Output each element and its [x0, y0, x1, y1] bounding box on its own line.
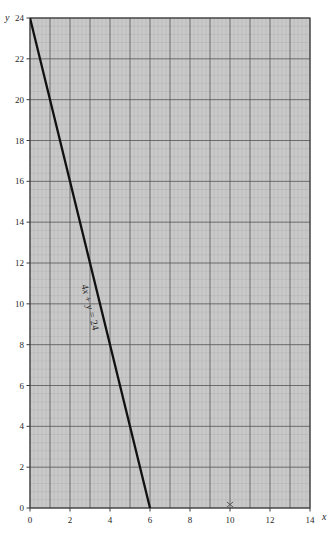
x-tick-label: 8 — [188, 516, 193, 525]
y-tick-label: 14 — [0, 218, 24, 227]
y-tick-label: 16 — [0, 177, 24, 186]
x-tick-label: 12 — [266, 516, 275, 525]
x-tick-label: 2 — [68, 516, 73, 525]
y-tick-label: 0 — [0, 504, 24, 513]
y-tick-label: 12 — [0, 259, 24, 268]
x-tick-label: 14 — [306, 516, 315, 525]
y-tick-label: 10 — [0, 299, 24, 308]
x-tick-label: 4 — [108, 516, 113, 525]
y-tick-label: 22 — [0, 54, 24, 63]
x-tick-label: 10 — [226, 516, 235, 525]
y-tick-label: 24 — [0, 14, 24, 23]
graph-figure: 024681012141618202224 02468101214 y x 4x… — [0, 0, 335, 549]
y-tick-label: 20 — [0, 95, 24, 104]
y-tick-label: 2 — [0, 463, 24, 472]
y-tick-label: 6 — [0, 381, 24, 390]
x-tick-label: 6 — [148, 516, 153, 525]
y-tick-label: 18 — [0, 136, 24, 145]
x-tick-label: 0 — [28, 516, 33, 525]
y-tick-label: 4 — [0, 422, 24, 431]
x-axis-label: x — [322, 512, 326, 522]
plot-canvas — [0, 0, 335, 549]
y-axis-label: y — [5, 13, 9, 23]
y-tick-label: 8 — [0, 340, 24, 349]
